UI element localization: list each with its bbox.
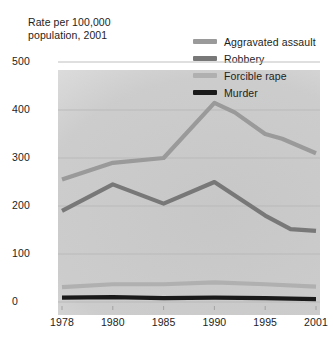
- plot-area: [58, 55, 320, 310]
- series-line-murder: [62, 297, 316, 299]
- x-tick-label-2001: 2001: [304, 316, 328, 328]
- chart-axis-title: Rate per 100,000 population, 2001: [28, 16, 111, 42]
- crime-rate-line-chart: Rate per 100,000 population, 2001 Aggrav…: [0, 0, 333, 344]
- legend-label-aggravated-assault: Aggravated assault: [224, 36, 316, 48]
- x-tick-label-1980: 1980: [101, 316, 125, 328]
- y-tick-label-300: 300: [12, 151, 58, 163]
- x-tick-label-1985: 1985: [152, 316, 176, 328]
- y-tick-label-0: 0: [12, 295, 58, 307]
- y-axis-tick-labels: 0100200300400500: [10, 55, 58, 310]
- legend-item-aggravated-assault: Aggravated assault: [193, 34, 333, 49]
- series-line-robbery: [62, 182, 316, 231]
- x-tick-label-1978: 1978: [50, 316, 74, 328]
- x-tick-label-1990: 1990: [203, 316, 227, 328]
- series-line-forcible-rape: [62, 282, 316, 287]
- x-axis-tick-labels: 197819801985199019952001: [58, 316, 328, 334]
- x-tick-label-1995: 1995: [253, 316, 277, 328]
- legend-swatch-aggravated-assault: [193, 39, 217, 44]
- series-line-aggravated-assault: [62, 103, 316, 180]
- plot-svg: [58, 55, 320, 310]
- y-tick-label-100: 100: [12, 247, 58, 259]
- y-tick-label-400: 400: [12, 103, 58, 115]
- y-tick-label-200: 200: [12, 199, 58, 211]
- y-tick-label-500: 500: [12, 55, 58, 67]
